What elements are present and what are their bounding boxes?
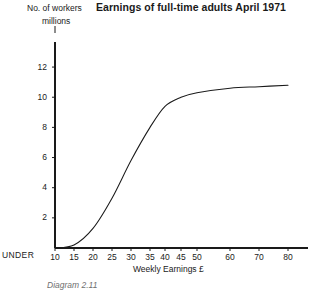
chart-figure: Earnings of full-time adults April 1971 … bbox=[0, 0, 312, 291]
cumulative-frequency-curve bbox=[55, 85, 288, 248]
plot-area bbox=[0, 0, 312, 291]
